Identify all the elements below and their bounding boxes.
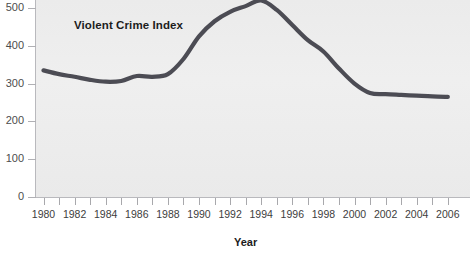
line-series xyxy=(0,0,470,267)
series-annotation-label: Violent Crime Index xyxy=(74,19,183,31)
chart-container: 0100200300400500 19801982198419861988199… xyxy=(0,0,470,267)
x-axis-title: Year xyxy=(216,236,276,248)
violent-crime-index-line xyxy=(44,0,448,96)
